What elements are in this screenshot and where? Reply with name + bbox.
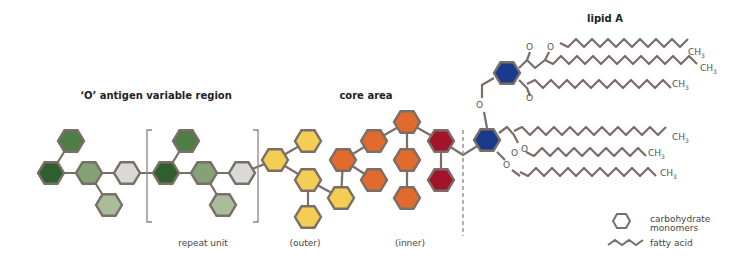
legend-fatty-acid-icon [608, 240, 643, 245]
methyl-subscript: 3 [701, 52, 705, 59]
methyl-subscript: 3 [661, 153, 665, 160]
monomer-repeat-unit [229, 162, 255, 183]
monomer-repeat-unit [210, 194, 236, 215]
monomer-core-inner [361, 130, 387, 151]
monomer-core-outer [328, 187, 354, 208]
methyl-label: CH [700, 63, 713, 73]
legend-carbohydrate-label-2: monomers [650, 223, 698, 233]
oxygen-label: O [503, 160, 510, 170]
monomer-o-antigen [38, 162, 64, 183]
monomer-o-antigen [58, 130, 84, 151]
monomer-core-inner [330, 149, 356, 170]
oxygen-label: O [476, 100, 483, 110]
monomer-core-inner [394, 149, 420, 170]
oxygen-label: O [547, 42, 554, 52]
monomer-repeat-unit [153, 162, 179, 183]
methyl-subscript: 3 [713, 68, 717, 75]
monomer-core-outer [295, 130, 321, 151]
legend: carbohydrate monomers fatty acid [608, 214, 711, 248]
o-antigen-title: ‘O’ antigen variable region [80, 90, 232, 101]
monomer-core-outer [262, 149, 288, 170]
methyl-subscript: 3 [685, 137, 689, 144]
legend-fatty-acid-label: fatty acid [650, 238, 693, 248]
monomer-repeat-unit [191, 162, 217, 183]
fatty-acid-chain-5 [526, 148, 646, 156]
legend-hexagon-icon [613, 214, 630, 228]
monomer-repeat-unit [173, 130, 199, 151]
monomer-o-antigen [114, 162, 140, 183]
methyl-label: CH [688, 47, 701, 57]
methyl-label: CH [648, 148, 661, 158]
monomer-core-inner [428, 169, 454, 190]
oxygen-label: O [526, 42, 533, 52]
core-area-title: core area [339, 90, 392, 101]
monomer-lipid-a [494, 62, 520, 83]
methyl-label: CH [672, 79, 685, 89]
monomer-lipid-a [474, 129, 500, 150]
outer-core-label: (outer) [290, 238, 321, 248]
fatty-acid-chains [497, 39, 697, 176]
inner-core-label: (inner) [395, 238, 425, 248]
monomer-core-outer [295, 169, 321, 190]
disaccharide-bond [482, 78, 494, 128]
oxygen-label: O [526, 93, 533, 103]
monomer-core-outer [295, 206, 321, 227]
repeat-unit-label: repeat unit [178, 238, 228, 248]
fatty-acid-chain-6 [520, 168, 656, 176]
fatty-acid-chain-4 [514, 127, 666, 135]
monomer-core-inner [428, 130, 454, 151]
oxygen-label: O [521, 144, 528, 154]
lipid-a-title: lipid A [587, 13, 623, 24]
methyl-subscript: 3 [685, 84, 689, 91]
fatty-acid-chain-1 [560, 39, 688, 47]
methyl-subscript: 3 [673, 173, 677, 180]
repeat-bracket-left [147, 130, 152, 222]
fatty-acid-chain-3 [527, 80, 671, 88]
methyl-label: CH [660, 168, 673, 178]
monomer-core-inner [361, 169, 387, 190]
monomer-core-inner [394, 111, 420, 132]
methyl-label: CH [672, 132, 685, 142]
oxygen-label: O [511, 148, 518, 158]
carbohydrate-monomers [38, 62, 520, 227]
lps-structure-diagram: OOOOOOOCH3CH3CH3CH3CH3CH3 ‘O’ antigen va… [0, 0, 751, 267]
fatty-acid-chain-2 [545, 56, 697, 64]
monomer-o-antigen [76, 162, 102, 183]
monomer-o-antigen [96, 194, 122, 215]
monomer-core-inner [394, 187, 420, 208]
acyl-link-1 [519, 52, 549, 68]
